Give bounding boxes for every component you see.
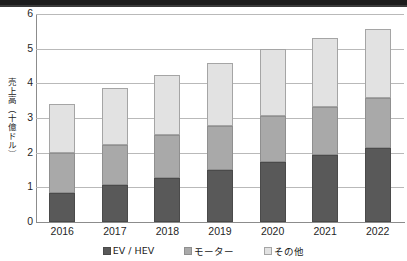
- y-tick-label: 0: [15, 215, 33, 227]
- legend-label: その他: [274, 244, 304, 258]
- bar-segment[interactable]: [365, 29, 391, 98]
- bar-group[interactable]: [102, 14, 128, 222]
- y-tick-label: 3: [15, 111, 33, 123]
- bar-group[interactable]: [365, 14, 391, 222]
- stacked-bar-chart-figure: 売上高（十億ドル） 0123456 2016201720182019202020…: [0, 0, 407, 261]
- x-tick-label: 2016: [36, 225, 89, 237]
- bar-segment[interactable]: [102, 88, 128, 145]
- y-tick-label: 5: [15, 42, 33, 54]
- chart-legend: EV / HEVモーターその他: [0, 243, 407, 258]
- x-tick-label: 2021: [299, 225, 352, 237]
- bar-segment[interactable]: [365, 148, 391, 222]
- bar-segment[interactable]: [260, 49, 286, 116]
- x-tick-label: 2022: [351, 225, 404, 237]
- y-tick-label: 2: [15, 146, 33, 158]
- bar-group[interactable]: [49, 14, 75, 222]
- bar-segment[interactable]: [154, 178, 180, 222]
- x-axis-tick-labels: 2016201720182019202020212022: [36, 225, 405, 241]
- x-axis-line: [36, 222, 405, 223]
- legend-label: EV / HEV: [113, 245, 154, 256]
- x-tick-label: 2018: [141, 225, 194, 237]
- bar-segment[interactable]: [49, 193, 75, 222]
- legend-item[interactable]: モーター: [184, 244, 234, 258]
- bar-group[interactable]: [207, 14, 233, 222]
- plot-area: [36, 14, 404, 222]
- x-tick-label: 2020: [246, 225, 299, 237]
- y-tick-label: 4: [15, 76, 33, 88]
- bar-group[interactable]: [260, 14, 286, 222]
- bar-segment[interactable]: [207, 63, 233, 126]
- page-edge-strip-shadow: [0, 5, 407, 7]
- legend-label: モーター: [194, 244, 234, 258]
- series-2-swatch: [264, 247, 272, 255]
- y-tick-label: 1: [15, 180, 33, 192]
- bar-segment[interactable]: [260, 162, 286, 222]
- x-tick-label: 2017: [89, 225, 142, 237]
- bar-segment[interactable]: [207, 170, 233, 222]
- series-0-swatch: [103, 247, 111, 255]
- y-tick-label: 6: [15, 7, 33, 19]
- x-tick-label: 2019: [194, 225, 247, 237]
- bar-segment[interactable]: [207, 126, 233, 170]
- bar-segment[interactable]: [312, 107, 338, 155]
- bar-segment[interactable]: [312, 155, 338, 222]
- y-axis-tick-labels: 0123456: [10, 0, 33, 261]
- bar-segment[interactable]: [365, 98, 391, 148]
- bar-segment[interactable]: [102, 185, 128, 222]
- bar-group[interactable]: [154, 14, 180, 222]
- legend-item[interactable]: EV / HEV: [103, 245, 154, 256]
- bar-segment[interactable]: [260, 116, 286, 162]
- series-1-swatch: [184, 247, 192, 255]
- legend-item[interactable]: その他: [264, 244, 304, 258]
- bar-segment[interactable]: [49, 104, 75, 153]
- bar-segment[interactable]: [312, 38, 338, 107]
- bar-group[interactable]: [312, 14, 338, 222]
- bar-segment[interactable]: [102, 145, 128, 185]
- bar-segment[interactable]: [154, 75, 180, 136]
- bar-segment[interactable]: [154, 135, 180, 178]
- bar-segment[interactable]: [49, 153, 75, 193]
